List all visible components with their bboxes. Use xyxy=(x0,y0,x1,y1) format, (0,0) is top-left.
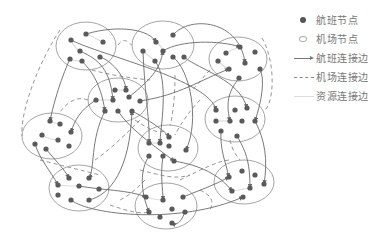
flight-edge xyxy=(142,156,149,212)
flight-node xyxy=(86,175,91,180)
legend-label: 机场连接边 xyxy=(316,69,369,84)
flight-node xyxy=(110,97,115,102)
flight-node xyxy=(153,39,158,44)
flight-node xyxy=(223,50,228,55)
flight-node xyxy=(129,108,134,113)
flight-edge xyxy=(255,69,262,121)
legend-item-flight-node: 航班节点 xyxy=(292,10,376,29)
flight-node xyxy=(213,118,218,123)
flight-node xyxy=(166,143,171,148)
flight-node xyxy=(93,97,98,102)
flight-edge xyxy=(80,51,113,100)
flight-node xyxy=(126,94,131,99)
flight-node xyxy=(143,194,148,199)
flight-node xyxy=(68,129,73,134)
flight-node xyxy=(140,48,145,53)
flight-node xyxy=(157,214,162,219)
airport-edge xyxy=(118,41,132,45)
flight-edge xyxy=(50,59,70,121)
flight-node xyxy=(237,44,242,49)
flight-node xyxy=(247,185,252,190)
legend-item-airport-edge: 机场连接边 xyxy=(292,67,376,86)
airport-edge xyxy=(200,190,212,210)
legend: 航班节点 机场节点 航班连接边 机场连接边 资源连接边 xyxy=(292,10,376,105)
legend-item-flight-edge: 航班连接边 xyxy=(292,48,376,67)
flight-edge xyxy=(221,131,229,177)
flight-node xyxy=(43,146,48,151)
flight-node xyxy=(236,75,241,80)
legend-label: 航班节点 xyxy=(316,12,358,27)
flight-node xyxy=(240,194,245,199)
flight-node xyxy=(57,121,62,126)
flight-node xyxy=(102,108,107,113)
resource-edge xyxy=(86,34,103,42)
flight-edge xyxy=(162,156,163,200)
flight-edge xyxy=(46,149,69,178)
airport-edge xyxy=(230,140,240,160)
flight-node xyxy=(137,98,142,103)
flight-node xyxy=(146,209,151,214)
flight-node xyxy=(67,56,72,61)
flight-node xyxy=(218,128,223,133)
flight-edge xyxy=(237,136,250,188)
flight-node xyxy=(244,105,249,110)
flight-node xyxy=(215,58,220,63)
flight-node xyxy=(257,66,262,71)
flight-node xyxy=(68,37,73,42)
flight-node xyxy=(76,183,81,188)
flight-node xyxy=(55,192,60,197)
flight-node xyxy=(160,48,165,53)
airport-edge xyxy=(110,205,150,213)
dashed-line-icon xyxy=(292,71,316,83)
flight-node xyxy=(55,137,60,142)
flight-node xyxy=(77,48,82,53)
flight-edge xyxy=(82,61,105,111)
flight-edge xyxy=(184,57,247,108)
flight-node xyxy=(160,153,165,158)
legend-label: 机场节点 xyxy=(316,31,358,46)
flight-node xyxy=(39,132,44,137)
flight-edge xyxy=(89,111,105,178)
flight-node xyxy=(171,158,176,163)
flight-node xyxy=(68,197,73,202)
flight-node xyxy=(160,197,165,202)
resource-edge xyxy=(232,188,250,191)
flight-edge xyxy=(163,42,240,51)
flight-edge xyxy=(89,111,132,200)
filled-dot-icon xyxy=(292,14,316,26)
flight-node xyxy=(239,168,244,173)
flight-node xyxy=(183,147,188,152)
flight-node xyxy=(170,54,175,59)
hollow-ellipse-icon xyxy=(292,33,316,45)
flight-node xyxy=(242,60,247,65)
flight-node xyxy=(227,118,232,123)
flight-edge xyxy=(86,29,156,42)
airport-edge xyxy=(95,120,140,160)
airport-edge xyxy=(22,30,60,136)
flight-node xyxy=(66,175,71,180)
flight-node xyxy=(239,118,244,123)
flight-node xyxy=(115,108,120,113)
legend-label: 航班连接边 xyxy=(316,50,369,65)
airport-node-I xyxy=(135,183,197,229)
flight-node xyxy=(157,140,162,145)
flight-node xyxy=(229,188,234,193)
flight-edge xyxy=(173,57,193,150)
flight-node xyxy=(234,133,239,138)
flight-node xyxy=(66,143,71,148)
flight-node xyxy=(166,134,171,139)
flight-node xyxy=(252,118,257,123)
flight-node xyxy=(97,54,102,59)
flight-edge xyxy=(132,111,169,137)
airport-flight-network-diagram xyxy=(0,0,290,241)
airport-edge xyxy=(170,75,175,125)
flight-node xyxy=(180,194,185,199)
flight-node xyxy=(252,49,257,54)
flight-node xyxy=(213,107,218,112)
airport-edge xyxy=(120,180,145,200)
airport-node-B xyxy=(132,21,194,69)
flight-node xyxy=(55,182,60,187)
legend-item-resource-edge: 资源连接边 xyxy=(292,86,376,105)
flight-node xyxy=(182,209,187,214)
flight-node xyxy=(169,206,174,211)
